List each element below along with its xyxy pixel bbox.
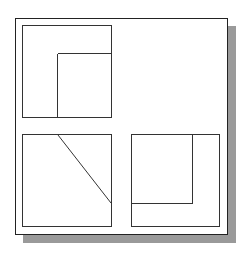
bottom-left-diagonal <box>58 135 111 203</box>
bottom-right-view <box>132 135 220 227</box>
top-left-view <box>23 26 112 118</box>
views-canvas <box>0 0 249 257</box>
bottom-left-view <box>23 135 112 227</box>
